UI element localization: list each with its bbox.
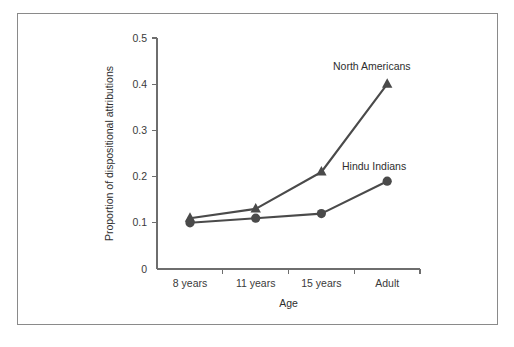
series-north-americans xyxy=(185,78,393,222)
y-tick-label-0: 0 xyxy=(141,263,147,275)
series-line-north-americans xyxy=(190,84,387,218)
y-axis-title: Proportion of dispositional attributions xyxy=(103,66,115,241)
y-tick-label-0.1: 0.1 xyxy=(132,216,147,228)
y-tick-marks xyxy=(152,38,157,223)
axes-group xyxy=(157,38,420,269)
x-tick-labels: 8 years 11 years 15 years Adult xyxy=(173,277,399,289)
y-tick-label-0.3: 0.3 xyxy=(132,124,147,136)
figure-container: 0.5 0.4 0.3 0.2 0.1 0 8 years 11 years 1… xyxy=(0,0,514,347)
series-label-north-americans: North Americans xyxy=(333,60,411,72)
marker-hindu-indians-8-years xyxy=(185,218,194,227)
x-tick-label-15-years: 15 years xyxy=(301,277,341,289)
x-axis-title: Age xyxy=(279,297,298,309)
marker-hindu-indians-11-years xyxy=(251,214,260,223)
series-line-hindu-indians xyxy=(190,181,387,223)
y-tick-label-0.4: 0.4 xyxy=(132,78,147,90)
y-tick-label-0.2: 0.2 xyxy=(132,170,147,182)
x-tick-label-8-years: 8 years xyxy=(173,277,207,289)
line-chart: 0.5 0.4 0.3 0.2 0.1 0 8 years 11 years 1… xyxy=(0,0,514,347)
series-hindu-indians xyxy=(185,177,391,228)
marker-north-americans-adult xyxy=(382,78,392,88)
series-label-hindu-indians: Hindu Indians xyxy=(342,160,406,172)
x-tick-label-11-years: 11 years xyxy=(236,277,276,289)
x-tick-label-adult: Adult xyxy=(375,277,399,289)
y-tick-label-0.5: 0.5 xyxy=(132,32,147,44)
marker-hindu-indians-15-years xyxy=(317,209,326,218)
y-tick-labels: 0.5 0.4 0.3 0.2 0.1 0 xyxy=(132,32,147,275)
marker-hindu-indians-adult xyxy=(383,177,392,186)
x-tick-marks xyxy=(223,269,420,274)
